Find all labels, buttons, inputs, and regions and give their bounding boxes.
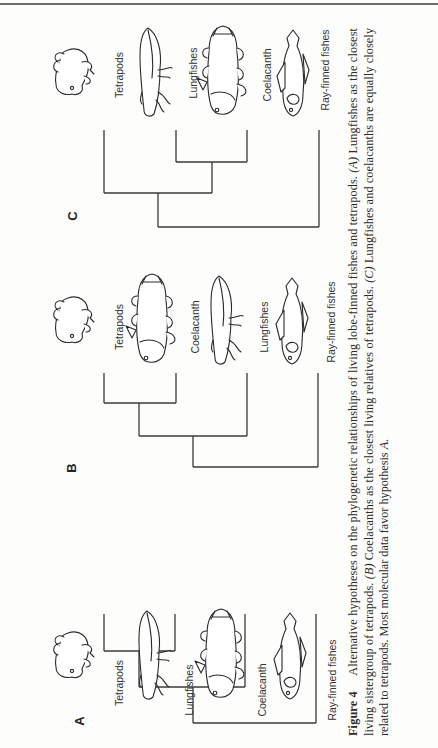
panel-letter: C — [65, 211, 80, 221]
coelacanth-drawing-icon — [195, 609, 244, 697]
taxon-label: Tetrapods — [113, 304, 125, 350]
tetrapod-drawing-icon — [54, 49, 94, 95]
tetrapod-drawing-icon — [54, 632, 94, 678]
rayfinned-drawing-icon — [276, 278, 308, 364]
rayfinned-drawing-icon — [277, 30, 309, 116]
rayfinned-drawing-icon — [274, 613, 306, 699]
tetrapod-drawing-icon — [54, 297, 94, 343]
lungfish-drawing-icon — [140, 28, 172, 116]
coelacanth-drawing-icon — [197, 26, 246, 114]
taxon-label: Tetrapods — [113, 52, 125, 98]
figure-number: Figure 4 — [346, 676, 360, 736]
caption-line: related to tetrapods. Most molecular dat… — [377, 439, 391, 736]
taxon-label: Lungfishes — [258, 302, 270, 353]
lungfish-drawing-icon — [139, 611, 171, 699]
taxon-label: Lungfishes — [183, 665, 195, 716]
taxon-label: Lungfishes — [187, 48, 199, 99]
tree-panel-a: ATetrapodsLungfishesCoelacanthRay-finned… — [54, 609, 338, 726]
phylogeny-figure: ATetrapodsLungfishesCoelacanthRay-finned… — [0, 0, 438, 748]
panel-letter: A — [72, 716, 87, 726]
lungfish-drawing-icon — [211, 276, 243, 364]
taxon-label: Ray-finned fishes — [326, 639, 338, 720]
taxon-label: Coelacanth — [261, 48, 273, 101]
coelacanth-drawing-icon — [126, 274, 175, 362]
taxon-label: Coelacanth — [256, 663, 268, 716]
book-page: ATetrapodsLungfishesCoelacanthRay-finned… — [0, 0, 438, 748]
taxon-label: Ray-finned fishes — [319, 29, 331, 110]
tree-panels: ATetrapodsLungfishesCoelacanthRay-finned… — [54, 26, 338, 726]
figure-caption: Figure 4 Alternative hypotheses on the p… — [346, 27, 391, 736]
tree-panel-b: BTetrapodsCoelacanthLungfishesRay-finned… — [54, 274, 337, 473]
taxon-label: Ray-finned fishes — [325, 281, 337, 362]
caption-line: living sistergroup of tetrapods. (B) Coe… — [362, 27, 376, 736]
tree-panel-c: CTetrapodsLungfishesCoelacanthRay-finned… — [54, 26, 331, 227]
taxon-label: Coelacanth — [189, 300, 201, 353]
caption-line: Figure 4 Alternative hypotheses on the p… — [346, 27, 360, 736]
panel-letter: B — [64, 463, 79, 472]
taxon-label: Tetrapods — [113, 660, 125, 706]
